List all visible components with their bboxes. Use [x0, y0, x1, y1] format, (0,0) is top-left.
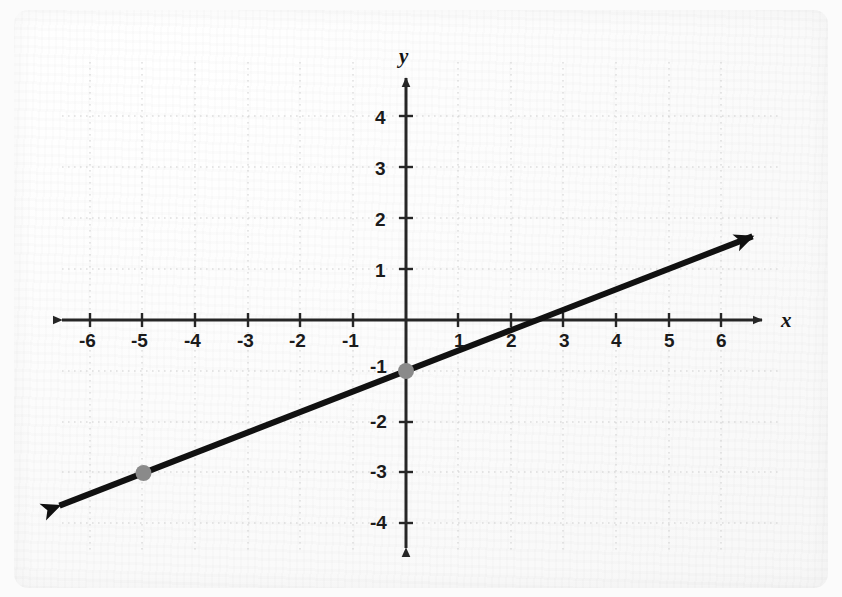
y-tick-label-3: 3: [375, 159, 386, 178]
graph-page: x y -6 -5 -4 -3 -2 -1 1 2 3 4 5 6 4 3 2 …: [0, 0, 842, 597]
x-tick-label-2: 2: [506, 331, 517, 350]
plot-point-y-intercept: [398, 363, 414, 379]
x-tick-label-neg4: -4: [184, 331, 201, 350]
x-tick-label-5: 5: [664, 331, 675, 350]
y-tick-label-neg1: -1: [370, 357, 387, 376]
x-axis-label: x: [781, 310, 792, 331]
grid-lines: [62, 62, 782, 552]
plot-point-second: [136, 465, 152, 481]
x-tick-label-4: 4: [611, 331, 622, 350]
y-tick-label-4: 4: [375, 108, 386, 127]
y-tick-label-2: 2: [375, 210, 386, 229]
y-tick-label-neg3: -3: [370, 462, 387, 481]
y-tick-label-neg2: -2: [370, 412, 387, 431]
y-axis-label: y: [399, 46, 408, 67]
x-tick-label-neg2: -2: [289, 331, 306, 350]
x-tick-label-neg1: -1: [342, 331, 359, 350]
coordinate-plane: [0, 0, 842, 597]
y-tick-label-neg4: -4: [370, 513, 387, 532]
x-tick-label-1: 1: [454, 331, 465, 350]
y-tick-label-1: 1: [375, 261, 386, 280]
x-tick-label-neg6: -6: [79, 331, 96, 350]
x-tick-label-3: 3: [559, 331, 570, 350]
x-tick-label-neg5: -5: [131, 331, 148, 350]
x-tick-label-neg3: -3: [237, 331, 254, 350]
x-tick-label-6: 6: [716, 331, 727, 350]
